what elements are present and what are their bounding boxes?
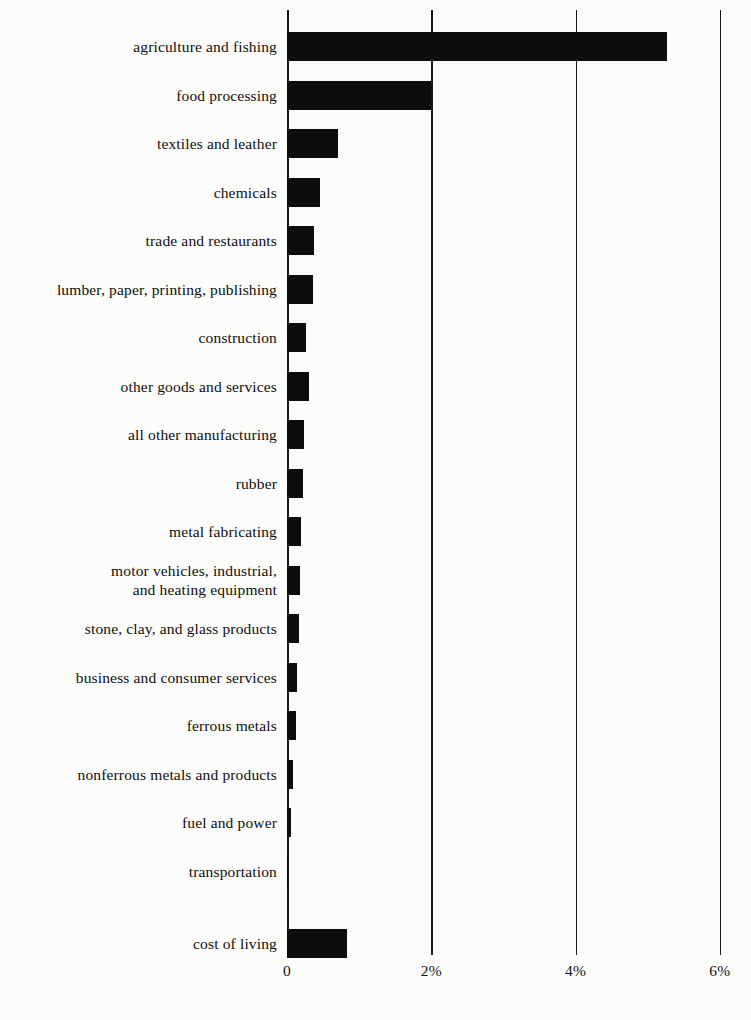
x-tick-label: 6%: [709, 962, 730, 980]
category-label: food processing: [0, 86, 277, 105]
bar-chart-plot: agriculture and fishingfood processingte…: [0, 0, 751, 1020]
category-label: construction: [0, 328, 277, 347]
x-tick-label: 0: [283, 962, 291, 980]
category-label: other goods and services: [0, 377, 277, 396]
category-label: trade and restaurants: [0, 231, 277, 250]
gridline-6: [720, 10, 722, 955]
x-tick-label: 2%: [421, 962, 442, 980]
bar: [287, 178, 320, 207]
bar: [287, 857, 288, 886]
bar: [287, 469, 303, 498]
category-label: cost of living: [0, 934, 277, 953]
bar: [287, 226, 314, 255]
gridline-2: [431, 10, 433, 955]
bar: [287, 929, 347, 958]
category-label: motor vehicles, industrial, and heating …: [0, 561, 277, 599]
category-label: transportation: [0, 862, 277, 881]
bar: [287, 711, 296, 740]
category-label: rubber: [0, 474, 277, 493]
chart-page: agriculture and fishingfood processingte…: [0, 0, 751, 1020]
category-label: agriculture and fishing: [0, 37, 277, 56]
category-label: business and consumer services: [0, 668, 277, 687]
category-label: fuel and power: [0, 813, 277, 832]
category-label: lumber, paper, printing, publishing: [0, 280, 277, 299]
category-label: chemicals: [0, 183, 277, 202]
bar: [287, 517, 301, 546]
category-label: metal fabricating: [0, 522, 277, 541]
bar: [287, 808, 291, 837]
bar: [287, 566, 300, 595]
bar: [287, 323, 306, 352]
bar: [287, 129, 338, 158]
category-label: nonferrous metals and products: [0, 765, 277, 784]
category-label: textiles and leather: [0, 134, 277, 153]
bar: [287, 81, 431, 110]
bar: [287, 32, 667, 61]
x-tick-label: 4%: [565, 962, 586, 980]
category-label: all other manufacturing: [0, 425, 277, 444]
bar: [287, 760, 293, 789]
bar: [287, 420, 304, 449]
bar: [287, 372, 309, 401]
bar: [287, 614, 299, 643]
bar: [287, 275, 313, 304]
bar: [287, 663, 297, 692]
gridline-4: [576, 10, 578, 955]
category-label: stone, clay, and glass products: [0, 619, 277, 638]
category-label: ferrous metals: [0, 716, 277, 735]
